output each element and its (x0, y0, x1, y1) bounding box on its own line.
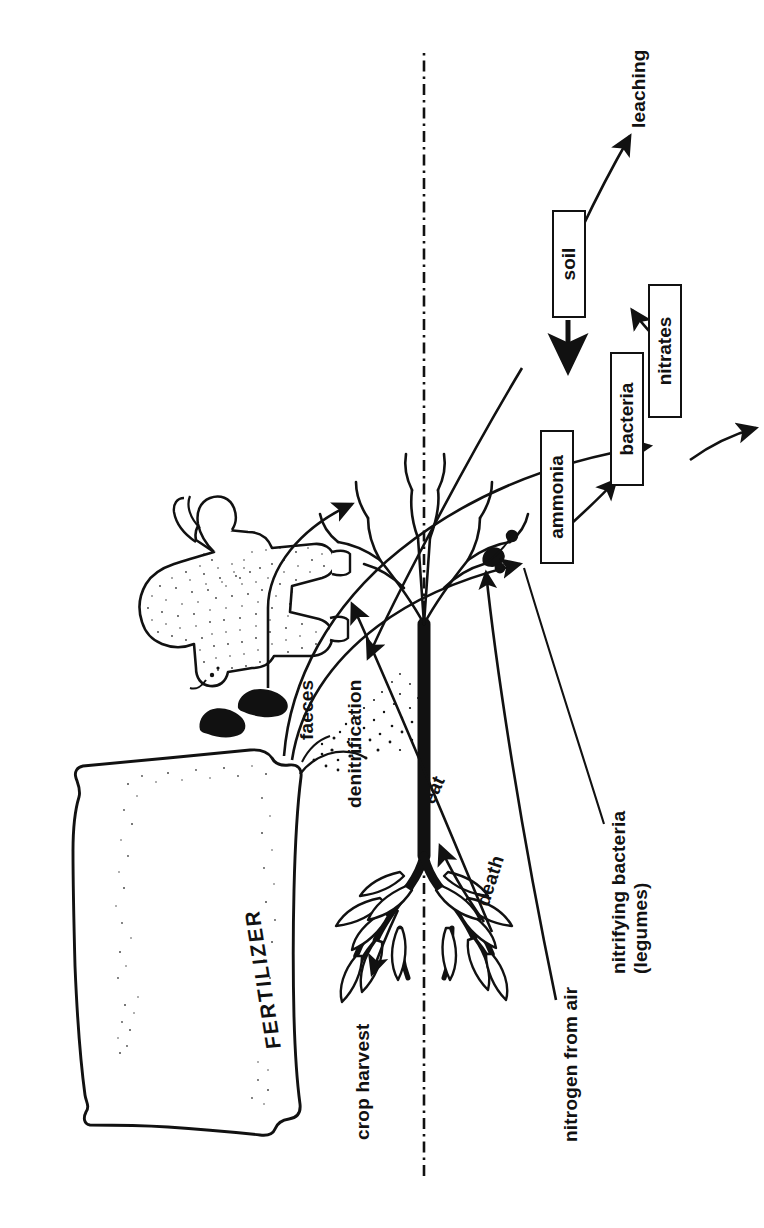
leaching-label: leaching (628, 49, 650, 128)
soil-box[interactable]: soil (552, 210, 586, 318)
nitrogen-from-air-label: nitrogen from air (560, 987, 582, 1142)
nitrifying-bacteria-label: nitrifying bacteria (legumes) (608, 811, 653, 974)
diagram-inner-canvas: FERTILIZER faeces eat death crop harvest… (0, 0, 764, 1228)
arrow-soil-to-leaching (582, 136, 630, 228)
nitrifying-bacteria-line-2: (legumes) (630, 882, 651, 974)
crop-harvest-label: crop harvest (352, 1024, 374, 1140)
ammonia-box[interactable]: ammonia (540, 430, 574, 564)
rotated-figure-wrapper: FERTILIZER faeces eat death crop harvest… (0, 0, 764, 1228)
nitrates-box[interactable]: nitrates (648, 284, 682, 418)
arrow-fertilizer-to-nitrates (284, 446, 650, 756)
leader-nitrifying-bacteria (524, 568, 604, 824)
denitrification-label: denitrification (344, 679, 366, 808)
figure-canvas: FERTILIZER faeces eat death crop harvest… (0, 0, 764, 1228)
arrow-roots-to-denitrification (368, 368, 522, 658)
faeces-label: faeces (296, 680, 318, 740)
nitrifying-bacteria-line-1: nitrifying bacteria (608, 811, 629, 974)
bacteria-box[interactable]: bacteria (610, 352, 644, 486)
arrow-bacteria-to-nitrates (690, 428, 756, 460)
diagram-vector-layer (0, 0, 764, 1228)
faeces-illustration (199, 689, 287, 737)
